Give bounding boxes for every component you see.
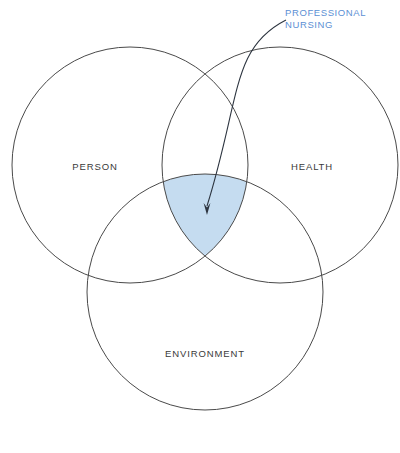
venn-diagram: PERSON HEALTH ENVIRONMENT PROFESSIONAL N… [0,0,400,453]
circle-label-person: PERSON [72,161,118,172]
callout-label-line1: PROFESSIONAL [285,7,366,18]
circle-label-environment: ENVIRONMENT [165,348,245,359]
triple-intersection-region [163,174,247,256]
circle-label-health: HEALTH [291,161,333,172]
callout-label-line2: NURSING [285,19,333,30]
venn-diagram-canvas: PERSON HEALTH ENVIRONMENT PROFESSIONAL N… [0,0,400,453]
